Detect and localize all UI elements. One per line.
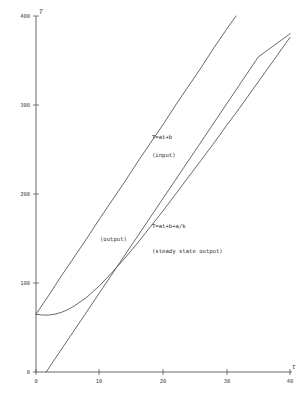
y-tick-label-400: 400 — [20, 13, 30, 19]
x-axis-label: t — [292, 363, 296, 370]
annotation-output-role: (output) — [100, 236, 127, 243]
origin-label: 0 — [27, 369, 30, 375]
series-group — [36, 16, 290, 372]
y-tick-label-100: 100 — [20, 280, 30, 286]
annotation-input-equation: T=at+b — [152, 134, 173, 140]
y-tick-label-200: 200 — [20, 191, 30, 197]
x-tick-label-10: 10 — [96, 378, 103, 384]
plot-canvas: 400 300 200 100 0 0 10 20 30 40 T t T=at… — [0, 0, 302, 402]
chart-figure: 400 300 200 100 0 0 10 20 30 40 T t T=at… — [0, 0, 302, 402]
x-tick-label-0: 0 — [34, 378, 37, 384]
y-tick-label-300: 300 — [20, 102, 30, 108]
x-tick-label-40: 40 — [287, 378, 294, 384]
series-curve-output — [36, 37, 290, 315]
series-line-input — [36, 16, 236, 314]
x-tick-label-30: 30 — [224, 378, 231, 384]
x-tick-label-20: 20 — [160, 378, 167, 384]
annotation-steady-role: (steady state output) — [152, 248, 223, 255]
annotation-steady-equation: T=at+b+a/k — [152, 223, 186, 229]
series-line-steady-state — [46, 34, 290, 372]
y-axis-label: T — [39, 8, 44, 15]
annotation-input-role: (input) — [152, 152, 176, 159]
